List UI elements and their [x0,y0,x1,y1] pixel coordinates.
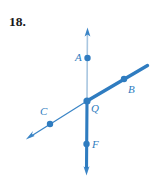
ray-QC-line [31,101,88,137]
ray-QB-line [87,66,148,102]
point-B-dot [121,76,127,82]
point-label-Q: Q [91,103,99,114]
point-label-C: C [40,106,47,117]
ray-QA-upward [85,28,91,102]
ray-QF-line [87,101,88,169]
point-label-A: A [75,52,82,63]
point-F-dot [83,141,89,147]
ray-QF-downward [84,101,90,176]
arrowhead-lower-left-icon [26,131,35,140]
point-C-dot [47,121,53,127]
ray-QC-lower-left [26,101,87,140]
point-Q-dot [83,97,90,104]
point-label-F: F [92,139,99,150]
geometry-figure: 18. A B C Q F [0,0,164,187]
ray-QB-upper-right [87,66,148,102]
point-label-B: B [128,84,135,95]
point-A-dot [84,55,90,61]
figure-canvas [0,0,164,187]
